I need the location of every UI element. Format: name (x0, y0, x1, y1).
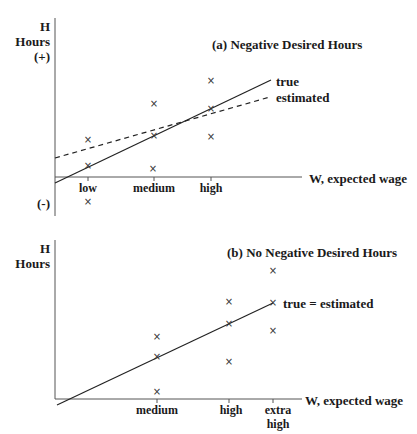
b-tick-medium: medium (136, 404, 178, 416)
a-tick-low: low (79, 182, 97, 194)
b-point: × (153, 332, 161, 342)
b-x-axis-label: W, expected wage (305, 394, 403, 407)
a-point: × (207, 104, 215, 114)
a-y-label-hours: Hours (0, 35, 50, 48)
a-estimated-line (55, 97, 270, 158)
b-tick-extra: extra (265, 404, 292, 416)
b-point: × (269, 266, 277, 276)
b-point: × (225, 357, 233, 367)
b-point: × (225, 319, 233, 329)
b-true-estimated-label: true = estimated (283, 297, 373, 310)
a-estimated-label: estimated (276, 91, 329, 104)
b-point: × (153, 387, 161, 397)
a-point: × (150, 99, 158, 109)
a-y-label-plus: (+) (10, 50, 50, 63)
b-tick-extra-high: high (267, 418, 290, 430)
b-tick-high: high (220, 404, 243, 416)
b-point: × (153, 352, 161, 362)
a-tick-high: high (200, 182, 223, 194)
a-point: × (84, 135, 92, 145)
a-point: × (150, 131, 158, 141)
b-y-label-h: H (10, 242, 50, 255)
b-point: × (225, 297, 233, 307)
a-y-label-h: H (10, 20, 50, 33)
a-point: × (207, 76, 215, 86)
b-point: × (269, 326, 277, 336)
a-point: × (84, 197, 92, 207)
b-point: × (269, 298, 277, 308)
a-y-label-minus: (-) (10, 197, 50, 210)
b-true-line (57, 303, 273, 405)
a-title: (a) Negative Desired Hours (212, 38, 362, 51)
a-x-axis-label: W, expected wage (309, 172, 407, 185)
b-title: (b) No Negative Desired Hours (227, 246, 397, 259)
diagram-canvas (0, 0, 417, 434)
a-point: × (149, 164, 157, 174)
a-tick-medium: medium (133, 182, 175, 194)
a-point: × (207, 132, 215, 142)
b-y-label-hours: Hours (0, 257, 50, 270)
a-true-label: true (276, 75, 299, 88)
a-point: × (84, 161, 92, 171)
